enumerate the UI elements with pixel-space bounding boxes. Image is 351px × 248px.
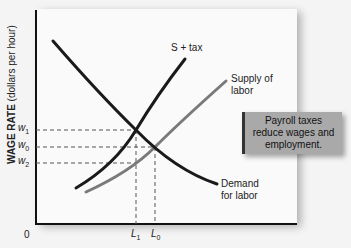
origin-label: 0 <box>24 229 30 240</box>
tick-w2: w2 <box>18 155 29 168</box>
supply-label: Supply oflabor <box>231 73 273 97</box>
tick-w0: w0 <box>18 139 29 152</box>
tick-w1: w1 <box>18 122 29 135</box>
s-plus-tax-label: S + tax <box>171 42 202 54</box>
tick-L0: L0 <box>151 228 160 241</box>
demand-label: Demandfor labor <box>221 178 259 202</box>
callout-box: Payroll taxes reduce wages and employmen… <box>242 112 342 154</box>
tick-L1: L1 <box>131 228 140 241</box>
